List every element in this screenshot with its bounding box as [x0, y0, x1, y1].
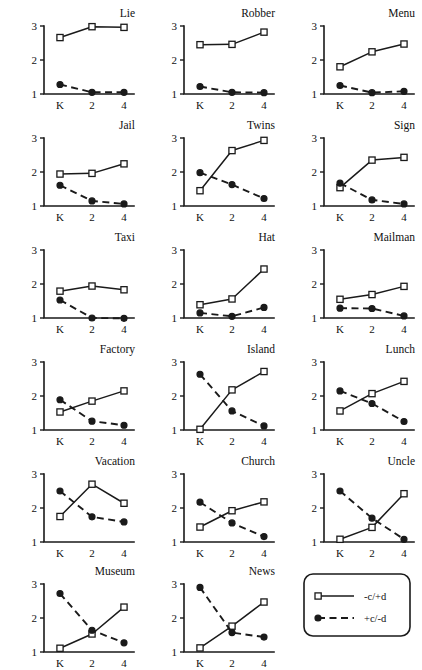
y-tick-label: 2 — [32, 278, 38, 290]
data-point-filled-circle — [57, 81, 63, 87]
data-point-filled-circle — [261, 90, 267, 96]
data-point-filled-circle — [261, 304, 267, 310]
y-tick-label: 1 — [172, 88, 178, 100]
data-point-open-square — [261, 137, 267, 143]
data-point-filled-circle — [261, 634, 267, 640]
panel-title: Mailman — [373, 231, 415, 243]
panel-title: Twins — [247, 119, 275, 131]
data-point-open-square — [337, 536, 343, 542]
panel-mailman: 123K24Mailman — [286, 226, 422, 336]
panel-title: Museum — [95, 565, 135, 577]
panel-jail: 123K24Jail — [6, 114, 146, 224]
x-tick-label: K — [196, 435, 204, 447]
x-tick-label: K — [56, 657, 64, 669]
panel-vacation: 123K24Vacation — [6, 450, 146, 560]
x-tick-label: K — [196, 547, 204, 559]
data-point-open-square — [369, 391, 375, 397]
x-tick-label: 4 — [261, 99, 267, 111]
legend-marker-filled-circle — [315, 615, 321, 621]
panel-lunch: 123K24Lunch — [286, 338, 422, 448]
panel-plot: 123K24Lie — [6, 2, 146, 112]
legend: -c/+d+c/-d — [302, 572, 412, 638]
y-tick-label: 3 — [172, 578, 178, 590]
x-tick-label: 4 — [261, 435, 267, 447]
x-tick-label: K — [336, 547, 344, 559]
x-tick-label: K — [336, 323, 344, 335]
x-tick-label: K — [56, 211, 64, 223]
data-point-filled-circle — [369, 305, 375, 311]
data-point-open-square — [401, 491, 407, 497]
data-point-open-square — [401, 154, 407, 160]
panel-plot: 123K24Twins — [146, 114, 286, 224]
data-point-filled-circle — [89, 315, 95, 321]
x-tick-label: 4 — [121, 435, 127, 447]
y-tick-label: 2 — [172, 278, 178, 290]
x-tick-label: 4 — [261, 657, 267, 669]
y-tick-label: 1 — [32, 536, 38, 548]
legend-marker-open-square — [315, 593, 321, 599]
data-point-filled-circle — [369, 90, 375, 96]
data-point-filled-circle — [121, 89, 127, 95]
data-point-open-square — [261, 599, 267, 605]
y-tick-label: 3 — [312, 468, 318, 480]
data-point-open-square — [57, 171, 63, 177]
x-tick-label: K — [56, 547, 64, 559]
data-point-filled-circle — [57, 182, 63, 188]
data-point-filled-circle — [337, 305, 343, 311]
x-tick-label: 4 — [121, 99, 127, 111]
data-point-open-square — [197, 426, 203, 432]
y-tick-label: 3 — [32, 20, 38, 32]
x-tick-label: 4 — [121, 211, 127, 223]
y-tick-label: 3 — [32, 356, 38, 368]
panel-taxi: 123K24Taxi — [6, 226, 146, 336]
y-tick-label: 2 — [172, 54, 178, 66]
y-tick-label: 3 — [312, 20, 318, 32]
panel-plot: 123K24News — [146, 560, 286, 670]
panel-title: Sign — [394, 119, 415, 132]
data-point-open-square — [89, 283, 95, 289]
data-point-filled-circle — [369, 197, 375, 203]
data-point-open-square — [57, 513, 63, 519]
data-point-filled-circle — [89, 514, 95, 520]
data-point-open-square — [229, 41, 235, 47]
x-tick-label: 2 — [229, 547, 235, 559]
panel-lie: 123K24Lie — [6, 2, 146, 112]
data-point-open-square — [337, 64, 343, 70]
panel-title: Lie — [120, 7, 135, 19]
panel-plot: 123K24Uncle — [286, 450, 422, 560]
data-point-filled-circle — [89, 418, 95, 424]
data-point-filled-circle — [229, 520, 235, 526]
data-point-filled-circle — [401, 313, 407, 319]
y-tick-label: 3 — [172, 132, 178, 144]
x-tick-label: 2 — [229, 657, 235, 669]
y-tick-label: 2 — [32, 390, 38, 402]
y-tick-label: 1 — [172, 312, 178, 324]
plot-axes — [184, 26, 274, 94]
x-tick-label: K — [336, 435, 344, 447]
panel-title: Hat — [258, 231, 275, 243]
panel-plot: 123K24Hat — [146, 226, 286, 336]
panel-title: Taxi — [115, 231, 135, 243]
data-point-filled-circle — [197, 499, 203, 505]
data-point-open-square — [229, 387, 235, 393]
y-tick-label: 1 — [172, 536, 178, 548]
series-line-solid — [60, 484, 124, 516]
y-tick-label: 3 — [172, 468, 178, 480]
y-tick-label: 1 — [32, 646, 38, 658]
data-point-open-square — [89, 24, 95, 30]
x-tick-label: K — [56, 435, 64, 447]
data-point-filled-circle — [229, 408, 235, 414]
data-point-open-square — [89, 481, 95, 487]
data-point-open-square — [229, 508, 235, 514]
data-point-filled-circle — [369, 400, 375, 406]
data-point-filled-circle — [261, 196, 267, 202]
data-point-filled-circle — [197, 84, 203, 90]
x-tick-label: 4 — [401, 547, 407, 559]
y-tick-label: 2 — [32, 54, 38, 66]
y-tick-label: 2 — [312, 278, 318, 290]
x-tick-label: K — [56, 99, 64, 111]
data-point-open-square — [89, 170, 95, 176]
y-tick-label: 3 — [172, 356, 178, 368]
x-tick-label: 2 — [229, 435, 235, 447]
